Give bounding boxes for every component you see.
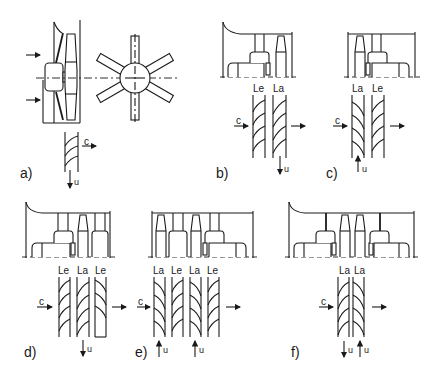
panel-e-flow-label: c xyxy=(138,297,143,307)
panel-e-stage-2-label: Le xyxy=(171,266,182,276)
fan-arrangements-diagram xyxy=(0,0,440,378)
panel-f-flow-label: c xyxy=(321,297,326,307)
panel-f-velocity-label-1: u xyxy=(348,346,353,355)
panel-a-blade-cascade xyxy=(65,132,96,188)
panel-c-caption: c) xyxy=(326,166,338,180)
panel-a-velocity-label: u xyxy=(74,178,79,187)
panel-b-stage-1-label: Le xyxy=(253,84,264,94)
panel-f-stage-1-label: La xyxy=(339,266,350,276)
panel-d-velocity-label: u xyxy=(87,345,92,354)
panel-b-stage-2-label: La xyxy=(273,84,284,94)
panel-d-cascade xyxy=(37,277,126,356)
panel-b-velocity-label: u xyxy=(284,165,289,174)
panel-a-flow-label: c xyxy=(84,137,89,147)
panel-b-cascade xyxy=(234,95,305,174)
panel-f-side-view xyxy=(285,202,420,258)
panel-c-stage-1-label: La xyxy=(352,84,363,94)
panel-e-cascade xyxy=(137,277,240,357)
panel-d-stage-1-label: Le xyxy=(58,266,69,276)
panel-b-caption: b) xyxy=(216,166,228,180)
panel-f-caption: f) xyxy=(291,345,300,359)
panel-e-stage-4-label: Le xyxy=(207,266,218,276)
panel-d-stage-3-label: Le xyxy=(95,266,106,276)
panel-f-stage-2-label: La xyxy=(354,266,365,276)
panel-c-side-view xyxy=(344,32,420,78)
panel-c-stage-2-label: Le xyxy=(372,84,383,94)
panel-a-side-view xyxy=(26,20,80,123)
panel-e-velocity-label-2: u xyxy=(199,346,204,355)
panel-c-velocity-label: u xyxy=(362,165,367,174)
panel-c-flow-label: c xyxy=(335,116,340,126)
panel-f-velocity-label-2: u xyxy=(364,346,369,355)
panel-e-stage-3-label: La xyxy=(189,266,200,276)
panel-a-caption: a) xyxy=(20,166,32,180)
panel-e-stage-1-label: La xyxy=(153,266,164,276)
panel-d-stage-2-label: La xyxy=(77,266,88,276)
panel-d-side-view xyxy=(22,202,115,258)
panel-c-cascade xyxy=(333,95,404,172)
panel-d-flow-label: c xyxy=(39,297,44,307)
panel-a-impeller-front xyxy=(97,34,174,122)
panel-e-velocity-label-1: u xyxy=(163,346,168,355)
panel-e-side-view xyxy=(148,211,258,258)
panel-d-caption: d) xyxy=(24,345,36,359)
panel-e-caption: e) xyxy=(135,345,147,359)
panel-b-flow-label: c xyxy=(236,116,241,126)
panel-b-side-view xyxy=(220,22,296,78)
